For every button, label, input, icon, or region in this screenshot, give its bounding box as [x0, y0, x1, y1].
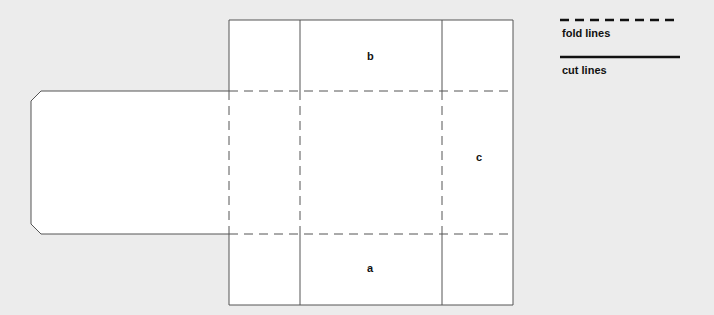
panel-label-c: c	[476, 151, 482, 163]
panel-label-a: a	[367, 262, 373, 274]
legend-fold-lines-label: fold lines	[562, 27, 610, 39]
legend-cut-lines-label: cut lines	[562, 64, 607, 76]
box-net-diagram	[0, 0, 714, 315]
panel-label-b: b	[367, 50, 374, 62]
net-fill	[31, 20, 513, 305]
